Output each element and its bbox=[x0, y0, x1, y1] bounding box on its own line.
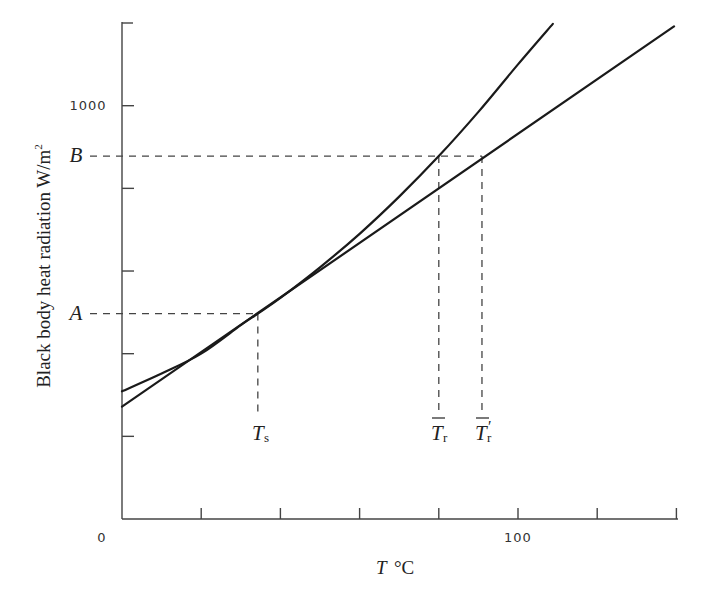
trp-sub: r bbox=[487, 430, 492, 445]
y-axis-label-text: Black body heat radiation W/m2 bbox=[32, 144, 54, 388]
y-axis-label-sup: 2 bbox=[32, 144, 44, 150]
ts-label: T s bbox=[252, 421, 269, 445]
tangent-line bbox=[122, 26, 674, 406]
mark-label-a: A bbox=[68, 301, 83, 325]
x-axis-label: T °C bbox=[376, 557, 414, 578]
x-tick-label-100: 100 bbox=[504, 530, 532, 545]
y-tick-label-1000: 1000 bbox=[69, 98, 106, 113]
y-axis-label: Black body heat radiation W/m2 bbox=[32, 144, 54, 388]
x-axis-label-unit: °C bbox=[394, 557, 414, 578]
x-ticks bbox=[201, 508, 676, 519]
x-tick-label-0: 0 bbox=[97, 530, 106, 545]
trp-label: T ′ r bbox=[475, 418, 492, 445]
tr-label: T r bbox=[431, 418, 448, 445]
axes bbox=[122, 22, 678, 519]
dashed-guides bbox=[90, 156, 482, 414]
x-axis-label-main: T bbox=[376, 557, 388, 578]
tr-sub: r bbox=[443, 430, 448, 445]
mark-label-b: B bbox=[70, 143, 83, 167]
chart: 0 100 1000 B A T s T r T ′ r T °C Black … bbox=[0, 0, 704, 600]
y-axis-label-main: Black body heat radiation W/m bbox=[33, 149, 54, 387]
ts-sub: s bbox=[264, 430, 269, 445]
radiation-curve bbox=[122, 24, 553, 391]
series bbox=[122, 24, 674, 407]
